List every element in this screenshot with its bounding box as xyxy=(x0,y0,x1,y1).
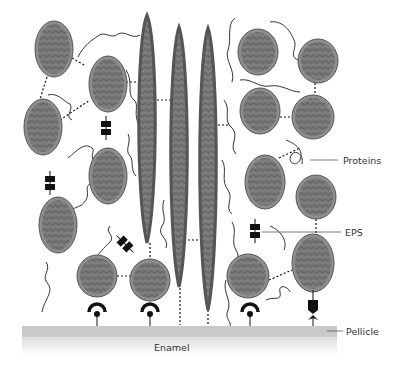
adhesins xyxy=(89,290,318,326)
coccus-cell xyxy=(292,95,334,139)
eps-block-icon xyxy=(101,116,111,140)
coccus-cell xyxy=(89,56,127,112)
coccus-cell xyxy=(238,29,278,75)
coccus-cell xyxy=(130,259,170,301)
eps-block-icon xyxy=(45,171,55,195)
label-pellicle: Pellicle xyxy=(346,326,379,337)
coccus-cell xyxy=(227,254,269,298)
coccus-cell xyxy=(296,175,336,219)
adhesin-receptor-icon xyxy=(242,304,258,326)
coccus-cell xyxy=(35,21,73,77)
label-proteins: Proteins xyxy=(343,155,381,166)
label-eps: EPS xyxy=(345,227,363,238)
pellicle-layer xyxy=(22,326,337,337)
biofilm-diagram: Proteins EPS Pellicle Enamel xyxy=(0,0,398,365)
coccus-cell xyxy=(240,88,280,134)
rod-1 xyxy=(139,15,156,243)
rod-2 xyxy=(171,27,188,287)
eps-block-icon xyxy=(113,232,137,256)
eps-block-icon xyxy=(250,219,260,243)
label-enamel: Enamel xyxy=(154,342,190,353)
adhesin-receptor-icon xyxy=(89,304,105,326)
coccus-cell xyxy=(245,155,285,209)
coccus-cell xyxy=(298,39,338,83)
coccus-cell xyxy=(77,255,117,297)
coccus-cell xyxy=(292,234,334,292)
adhesin-chevron-icon xyxy=(308,290,318,326)
adhesin-receptor-icon xyxy=(142,304,158,326)
coccus-cell xyxy=(24,99,62,155)
coccus-cell xyxy=(89,148,127,204)
rod-3 xyxy=(200,28,217,310)
coccus-cell xyxy=(39,197,77,253)
